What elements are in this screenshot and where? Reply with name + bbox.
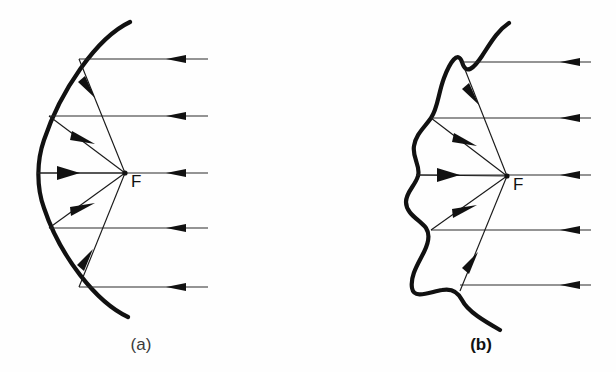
focus-label-b: F: [513, 175, 523, 194]
focus-label-a: F: [131, 172, 141, 191]
irregular-mirror-curve: [406, 23, 509, 330]
arrow-head-icon: [77, 249, 93, 271]
arrow-head-icon: [560, 226, 580, 234]
arrow-head-icon: [166, 224, 186, 232]
reflector-figure: F (a): [0, 0, 616, 372]
arrow-head-icon: [70, 131, 95, 144]
arrow-head-icon: [166, 112, 186, 120]
arrow-head-icon: [437, 168, 460, 182]
focus-point-b: [504, 173, 509, 178]
arrow-head-icon: [70, 203, 95, 216]
panel-caption-b: (b): [470, 335, 492, 354]
arrow-head-icon: [166, 169, 186, 177]
arrow-head-icon: [560, 281, 580, 289]
arrow-head-icon: [560, 114, 580, 122]
arrow-head-icon: [78, 76, 95, 98]
arrow-head-icon: [462, 83, 479, 105]
panel-caption-a: (a): [131, 335, 152, 354]
arrow-head-icon: [462, 252, 478, 274]
figure-root: F (a): [0, 0, 616, 372]
incoming-ray-arrowheads-a: [166, 55, 186, 291]
incoming-ray-arrowheads-b: [560, 58, 580, 289]
arrow-head-icon: [452, 205, 477, 218]
panel-a: F (a): [37, 22, 208, 354]
arrow-head-icon: [560, 171, 580, 179]
arrow-head-icon: [560, 58, 580, 66]
focus-point-a: [122, 170, 127, 175]
arrow-head-icon: [166, 283, 186, 291]
reflected-ray-arrowheads-b: [437, 83, 479, 274]
arrow-head-icon: [166, 55, 186, 63]
reflected-rays-b: [416, 62, 507, 291]
panel-b: F (b): [406, 23, 591, 354]
reflected-rays-a: [37, 59, 125, 287]
arrow-head-icon: [57, 166, 80, 180]
